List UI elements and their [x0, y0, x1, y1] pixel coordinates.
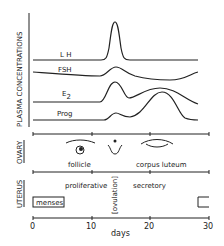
- lh-curve: [33, 22, 198, 60]
- lh-label: L H: [60, 51, 71, 59]
- tick-30: 30: [203, 222, 213, 231]
- secretory-label: secretory: [133, 182, 166, 190]
- tick-0: 0: [30, 222, 35, 231]
- follicle-icon-oocyte: [79, 147, 83, 151]
- ovulation-icon-dot: [114, 140, 117, 143]
- menses-label: menses: [36, 199, 64, 207]
- tick-10: 10: [86, 222, 96, 231]
- corpus-luteum-icon-lower: [146, 144, 168, 147]
- tick-20: 20: [144, 222, 154, 231]
- follicle-label: follicle: [68, 161, 91, 169]
- next-menses-bracket: [198, 197, 209, 207]
- proliferative-label: proliferative: [65, 182, 107, 190]
- corpus-luteum-icon: [141, 140, 173, 145]
- y-axis-label: PLASMA CONCENTRATIONS: [16, 31, 24, 127]
- menstrual-cycle-diagram: PLASMA CONCENTRATIONS L H FSH E2 Prog OV…: [0, 0, 224, 246]
- uterus-label: UTERUS: [16, 179, 24, 208]
- corpus-luteum-label: corpus luteum: [136, 161, 187, 169]
- fsh-label: FSH: [58, 66, 72, 74]
- ovulation-icon: [108, 145, 122, 154]
- ovulation-label: [ovulation]: [111, 176, 119, 214]
- prog-label: Prog: [57, 110, 73, 118]
- e2-label: E2: [62, 90, 71, 101]
- ovary-label: OVARY: [16, 140, 24, 164]
- follicle-icon: [66, 140, 95, 143]
- x-axis-label: days: [111, 229, 130, 238]
